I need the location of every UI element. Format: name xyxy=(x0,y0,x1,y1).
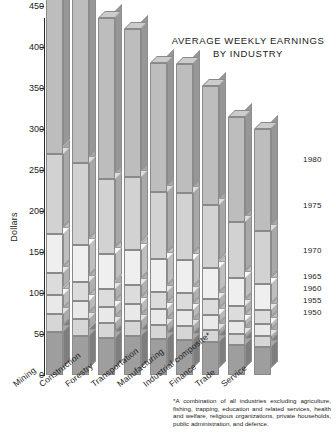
bar-segment[interactable] xyxy=(46,234,63,273)
footnote: *A combination of all industries excludi… xyxy=(173,397,331,427)
bar-segment[interactable] xyxy=(202,86,219,205)
bar-segment[interactable] xyxy=(176,326,193,340)
bar-segment[interactable] xyxy=(124,250,141,285)
bar-segment[interactable] xyxy=(228,321,245,334)
bar-segment[interactable] xyxy=(254,310,271,324)
y-tick-label: 300 xyxy=(10,125,44,133)
bar-segment-side xyxy=(89,0,96,156)
bar-segment-side xyxy=(271,115,278,224)
bar-segment[interactable] xyxy=(72,301,89,319)
bar-segment[interactable] xyxy=(46,154,63,234)
bar-segment[interactable] xyxy=(176,260,193,293)
bar-segment[interactable] xyxy=(72,282,89,302)
bar-segment[interactable] xyxy=(98,179,115,254)
bar-segment-side xyxy=(115,4,122,172)
year-legend-label: 1960 xyxy=(303,284,322,293)
bar-segment[interactable] xyxy=(98,289,115,307)
bar-segment[interactable] xyxy=(176,193,193,260)
y-tick-label: 350 xyxy=(10,84,44,92)
bar-segment[interactable] xyxy=(124,285,141,304)
bar-segment[interactable] xyxy=(254,284,271,310)
plot-area xyxy=(44,0,336,448)
year-legend-label: 1975 xyxy=(303,201,322,210)
bar-segment[interactable] xyxy=(150,292,167,309)
bar-segment[interactable] xyxy=(228,222,245,278)
bar-segment[interactable] xyxy=(46,314,63,332)
bar-segment[interactable] xyxy=(150,325,167,339)
bar-segment-side xyxy=(219,254,226,292)
bar-segment[interactable] xyxy=(150,309,167,325)
bar-segment[interactable] xyxy=(228,278,245,306)
bar-segment[interactable] xyxy=(124,29,141,177)
bar-segment[interactable] xyxy=(202,299,219,315)
bar-segment[interactable] xyxy=(46,295,63,315)
year-legend-label: 1965 xyxy=(303,272,322,281)
bar-segment-side xyxy=(245,103,252,216)
bar-segment[interactable] xyxy=(98,18,115,179)
year-legend-label: 1955 xyxy=(303,296,322,305)
y-tick-label: 200 xyxy=(10,207,44,215)
bar-segment[interactable] xyxy=(254,324,271,336)
year-legend-label: 1950 xyxy=(303,308,322,317)
bar-segment-side xyxy=(141,236,148,278)
year-legend-label: 1980 xyxy=(303,155,322,164)
bar-segment[interactable] xyxy=(228,117,245,223)
chart-canvas: AVERAGE WEEKLY EARNINGS BY INDUSTRY Doll… xyxy=(0,0,336,448)
bar-column[interactable] xyxy=(254,0,271,448)
bar-segment[interactable] xyxy=(254,129,271,231)
y-tick-label: 50 xyxy=(10,330,44,338)
bar-segment[interactable] xyxy=(98,254,115,288)
bar-segment-side xyxy=(89,149,96,238)
bar-segment[interactable] xyxy=(98,323,115,338)
bar-segment[interactable] xyxy=(72,245,89,282)
bar-segment[interactable] xyxy=(150,259,167,292)
bar-segment[interactable] xyxy=(176,64,193,193)
bar-segment[interactable] xyxy=(176,310,193,326)
bar-segment[interactable] xyxy=(202,268,219,299)
bar-segment-side xyxy=(63,0,70,147)
bar-segment[interactable] xyxy=(202,205,219,267)
bar-segment[interactable] xyxy=(254,231,271,284)
bar-segment[interactable] xyxy=(124,177,141,249)
year-legend-label: 1970 xyxy=(303,246,322,255)
y-tick-label: 250 xyxy=(10,166,44,174)
y-tick-label: 450 xyxy=(10,2,44,10)
bar-segment[interactable] xyxy=(124,304,141,321)
bar-segment-side xyxy=(167,49,174,185)
bar-segment-side xyxy=(219,72,226,198)
bar-segment[interactable] xyxy=(46,273,63,294)
bar-segment[interactable] xyxy=(72,319,89,335)
bar-segment[interactable] xyxy=(98,307,115,323)
bar-segment[interactable] xyxy=(254,336,271,347)
bar-segment-side xyxy=(141,15,148,170)
bar-segment[interactable] xyxy=(176,293,193,310)
y-tick-label: 100 xyxy=(10,289,44,297)
bar-segment[interactable] xyxy=(150,63,167,192)
bar-segment[interactable] xyxy=(150,192,167,259)
bar-segment[interactable] xyxy=(254,347,271,375)
bar-segment[interactable] xyxy=(228,334,245,345)
bar-segment[interactable] xyxy=(72,163,89,245)
bar-segment[interactable] xyxy=(46,0,63,154)
bar-segment[interactable] xyxy=(202,315,219,330)
bar-segment[interactable] xyxy=(124,321,141,337)
bar-segment[interactable] xyxy=(72,0,89,163)
bar-segment-side xyxy=(193,50,200,186)
y-tick-label: 150 xyxy=(10,248,44,256)
bar-segment[interactable] xyxy=(228,306,245,321)
y-tick-label: 400 xyxy=(10,43,44,51)
